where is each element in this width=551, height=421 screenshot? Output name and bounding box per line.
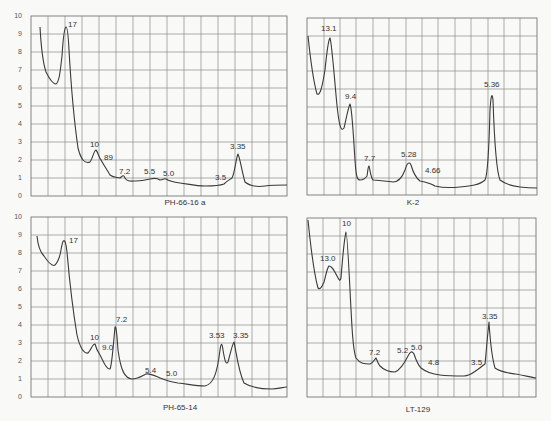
peak-label: 3.35 [482, 312, 498, 321]
peak-label: 13.0 [320, 254, 336, 263]
peak-label: 5.2 [397, 346, 408, 355]
plot-frame [307, 218, 536, 397]
plot-area [0, 0, 551, 421]
peak-label: 10 [342, 219, 351, 228]
chart-panel-lt-129: 13.0 10 7.2 5.2 5.0 4.8 3.5 3.35 LT-129 [0, 0, 551, 421]
spectrum-trace [308, 220, 536, 378]
peak-label: 4.8 [428, 358, 439, 367]
panel-caption: LT-129 [398, 405, 438, 414]
grid [307, 218, 536, 397]
peak-label: 5.0 [411, 343, 422, 352]
peak-label: 7.2 [369, 348, 380, 357]
peak-label: 3.5 [471, 358, 482, 367]
